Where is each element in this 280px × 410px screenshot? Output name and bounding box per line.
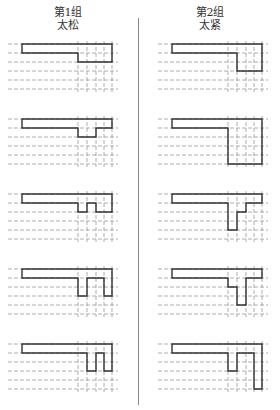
shape-outline-left-2 bbox=[22, 119, 112, 137]
shape-outline-left-5 bbox=[22, 344, 112, 371]
shape-outline-right-1 bbox=[172, 44, 262, 71]
shape-outline-left-4 bbox=[22, 269, 112, 296]
shape-outline-right-5 bbox=[172, 344, 262, 389]
tiling-diagram bbox=[0, 0, 280, 410]
shape-outline-right-2 bbox=[172, 119, 262, 164]
